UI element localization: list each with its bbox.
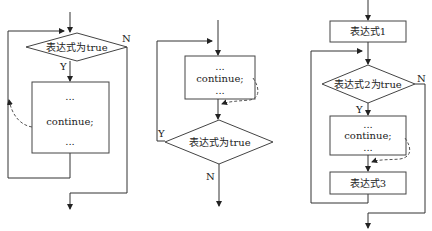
body-line-1: ... bbox=[215, 61, 225, 72]
while-loop-diagram: 表达式为true N Y ... continue; ... bbox=[8, 12, 131, 209]
yes-label: Y bbox=[157, 128, 165, 139]
exit-line bbox=[368, 84, 425, 228]
body-line-2: continue; bbox=[344, 130, 391, 141]
body-line-3: ... bbox=[363, 142, 373, 153]
body-line-1: ... bbox=[363, 119, 373, 130]
body-line-3: ... bbox=[215, 85, 225, 96]
init-text: 表达式1 bbox=[350, 25, 386, 37]
body-line-3: ... bbox=[65, 136, 75, 147]
do-while-loop-diagram: ... continue; ... 表达式为true Y N bbox=[157, 20, 273, 206]
yes-label: Y bbox=[59, 61, 67, 72]
condition-text: 表达式为true bbox=[46, 41, 107, 53]
condition-text: 表达式为true bbox=[189, 136, 250, 148]
update-text: 表达式3 bbox=[350, 177, 386, 189]
flowchart-canvas: 表达式为true N Y ... continue; ... ... conti… bbox=[0, 0, 432, 231]
body-line-2: continue; bbox=[46, 116, 93, 127]
no-label: N bbox=[122, 33, 131, 44]
for-loop-diagram: 表达式1 表达式2为true N Y ... continue; ... 表达式… bbox=[311, 0, 426, 228]
yes-label: Y bbox=[355, 104, 363, 115]
condition-text: 表达式2为true bbox=[334, 78, 402, 90]
no-label: N bbox=[417, 73, 426, 84]
body-line-1: ... bbox=[65, 91, 75, 102]
continue-jump-arrow bbox=[9, 100, 32, 127]
no-label: N bbox=[206, 171, 215, 182]
body-line-2: continue; bbox=[196, 73, 243, 84]
